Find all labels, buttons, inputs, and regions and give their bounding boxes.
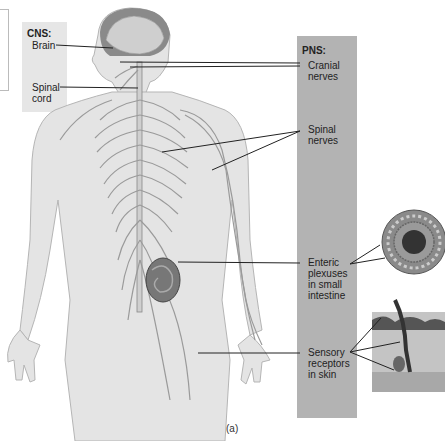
intestine-cross-section-inset <box>382 210 445 274</box>
label-enteric-plexuses: Entericplexusesin smallintestine <box>308 257 347 301</box>
skin-section-inset <box>372 300 445 392</box>
label-spinal-nerves: Spinalnerves <box>308 124 338 146</box>
small-intestine <box>146 258 180 302</box>
label-cranial-nerves: Cranialnerves <box>308 60 340 82</box>
label-sensory-receptors: Sensoryreceptorsin skin <box>308 347 350 380</box>
brain <box>100 8 170 56</box>
pns-heading: PNS: <box>302 45 326 56</box>
figure-caption: (a) <box>226 423 238 434</box>
label-spinal-cord: Spinalcord <box>32 82 60 104</box>
cns-heading: CNS: <box>27 28 51 39</box>
label-brain: Brain <box>32 40 55 51</box>
human-nervous-system-illustration <box>0 0 445 441</box>
